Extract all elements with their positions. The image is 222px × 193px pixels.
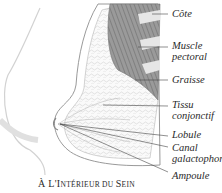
breast-outline — [0, 8, 45, 175]
label-canal-galactophore: Canal galactophore — [172, 142, 222, 164]
label-muscle-pectoral: Muscle pectoral — [172, 40, 207, 62]
label-graisse: Graisse — [172, 74, 205, 85]
label-lobule: Lobule — [172, 129, 201, 140]
label-cote: Côte — [172, 8, 192, 19]
diagram-title: À L'INTÉRIEUR DU SEIN — [38, 178, 135, 189]
breast-anatomy-illustration — [0, 0, 222, 193]
label-ampoule: Ampoule — [172, 170, 209, 181]
label-tissu-conjonctif: Tissu conjonctif — [172, 99, 214, 121]
